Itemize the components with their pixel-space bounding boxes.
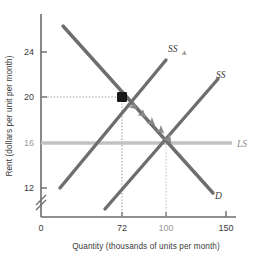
x-axis-ticks	[122, 211, 226, 217]
series-label-ss-a-subscript: A	[181, 49, 186, 56]
chart-container: 24 20 16 12 0 72 100 150 SS A SS LS D Qu…	[0, 0, 269, 257]
y-axis-title: Rent (dollars per unit per month)	[5, 55, 14, 176]
y-tick-label-16: 16	[24, 138, 34, 148]
x-tick-label-72: 72	[117, 223, 127, 233]
y-axis-ticks	[41, 52, 47, 188]
series-label-ss: SS	[216, 70, 226, 80]
adjustment-arrow-chain	[128, 101, 175, 146]
y-tick-label-24: 24	[24, 47, 34, 57]
supply-demand-chart: 24 20 16 12 0 72 100 150 SS A SS LS D Qu…	[0, 0, 269, 257]
series-label-d: D	[214, 191, 222, 201]
series-label-ss-a: SS	[168, 44, 178, 54]
x-axis-title: Quantity (thousands of units per month)	[72, 242, 220, 251]
y-tick-label-12: 12	[24, 183, 34, 193]
x-tick-label-0: 0	[38, 223, 43, 233]
x-tick-label-150: 150	[218, 223, 233, 233]
short-run-equilibrium-marker	[117, 92, 127, 102]
y-tick-label-20: 20	[24, 92, 34, 102]
x-tick-label-100: 100	[158, 223, 173, 233]
series-label-ls: LS	[236, 139, 247, 149]
